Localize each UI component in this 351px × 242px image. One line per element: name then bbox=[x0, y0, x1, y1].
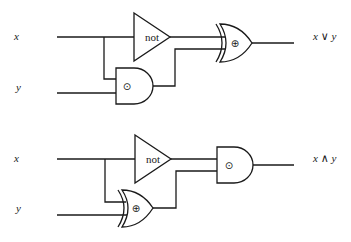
logic-circuit-diagram: x y not ⊙ ⊕ x ∨ y x y bbox=[0, 0, 351, 242]
wire-x-branch-to-xor bbox=[105, 159, 126, 202]
and-gate: ⊙ bbox=[116, 68, 153, 104]
and-gate: ⊙ bbox=[217, 147, 253, 183]
output-label: x ∧ y bbox=[312, 152, 336, 164]
xor-gate-symbol: ⊕ bbox=[231, 38, 239, 49]
not-gate: not bbox=[135, 135, 171, 183]
not-gate-label: not bbox=[145, 31, 159, 43]
xor-gate-symbol: ⊕ bbox=[132, 203, 140, 214]
input-y-label: y bbox=[15, 202, 21, 214]
input-x-label: x bbox=[13, 30, 19, 42]
not-gate: not bbox=[134, 13, 170, 61]
input-x-label: x bbox=[13, 152, 19, 164]
xor-gate: ⊕ bbox=[216, 24, 252, 62]
and-gate-symbol: ⊙ bbox=[123, 81, 131, 92]
circuit-2: x y not ⊕ ⊙ x ∧ y bbox=[13, 135, 336, 227]
output-label: x ∨ y bbox=[312, 30, 336, 42]
wire-xor-to-and bbox=[153, 171, 217, 208]
xor-gate: ⊕ bbox=[118, 190, 153, 227]
and-gate-symbol: ⊙ bbox=[225, 160, 233, 171]
wire-and-to-xor bbox=[153, 49, 227, 86]
input-y-label: y bbox=[15, 81, 21, 93]
circuit-1: x y not ⊙ ⊕ x ∨ y bbox=[13, 13, 336, 104]
not-gate-label: not bbox=[146, 153, 160, 165]
wire-x-branch-to-and bbox=[104, 37, 116, 79]
